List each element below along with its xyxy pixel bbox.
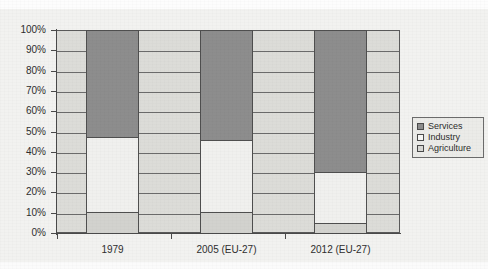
y-tick-mark-50 bbox=[51, 132, 57, 133]
y-tick-label-100: 100% bbox=[2, 25, 46, 35]
y-tick-label-80: 80% bbox=[2, 66, 46, 76]
bar-segment-services bbox=[201, 30, 252, 141]
bar-segment-agriculture bbox=[201, 213, 252, 233]
legend-swatch-industry bbox=[417, 134, 424, 141]
x-tick-mark-1 bbox=[171, 233, 172, 239]
y-tick-label-10: 10% bbox=[2, 208, 46, 218]
y-tick-label-20: 20% bbox=[2, 187, 46, 197]
bar-segment-services bbox=[315, 30, 366, 173]
bar-segment-industry bbox=[87, 138, 138, 213]
legend-label-industry: Industry bbox=[428, 132, 460, 143]
bar-segment-agriculture bbox=[87, 213, 138, 233]
bar-segment-industry bbox=[201, 141, 252, 213]
chart-title-cropped bbox=[96, 0, 396, 3]
y-tick-label-0: 0% bbox=[2, 228, 46, 238]
x-tick-label-0: 1979 bbox=[58, 244, 168, 255]
y-tick-label-90: 90% bbox=[2, 45, 46, 55]
legend-label-agriculture: Agriculture bbox=[428, 143, 471, 154]
y-tick-mark-10 bbox=[51, 213, 57, 214]
legend-item-industry: Industry bbox=[417, 132, 480, 143]
y-tick-mark-30 bbox=[51, 172, 57, 173]
y-tick-mark-70 bbox=[51, 91, 57, 92]
bar-2005-eu-27- bbox=[200, 30, 253, 233]
y-tick-mark-20 bbox=[51, 192, 57, 193]
bar-1979 bbox=[86, 30, 139, 233]
x-axis-line bbox=[56, 233, 401, 234]
bar-segment-agriculture bbox=[315, 224, 366, 233]
y-tick-label-50: 50% bbox=[2, 127, 46, 137]
legend-swatch-agriculture bbox=[417, 145, 424, 152]
y-tick-label-30: 30% bbox=[2, 167, 46, 177]
y-tick-mark-90 bbox=[51, 50, 57, 51]
bar-segment-services bbox=[87, 30, 138, 138]
y-tick-mark-40 bbox=[51, 152, 57, 153]
y-tick-mark-0 bbox=[51, 233, 57, 234]
x-tick-mark-2 bbox=[285, 233, 286, 239]
x-tick-label-1: 2005 (EU-27) bbox=[172, 244, 282, 255]
legend-label-services: Services bbox=[428, 121, 463, 132]
y-tick-label-40: 40% bbox=[2, 147, 46, 157]
y-tick-mark-80 bbox=[51, 71, 57, 72]
legend-item-services: Services bbox=[417, 121, 480, 132]
bar-segment-industry bbox=[315, 173, 366, 224]
y-tick-mark-60 bbox=[51, 111, 57, 112]
x-tick-label-2: 2012 (EU-27) bbox=[286, 244, 396, 255]
bar-2012-eu-27- bbox=[314, 30, 367, 233]
legend-item-agriculture: Agriculture bbox=[417, 143, 480, 154]
chart-legend: Services Industry Agriculture bbox=[412, 117, 484, 158]
stacked-bar-chart-figure: 0%10%20%30%40%50%60%70%80%90%100% 197920… bbox=[0, 0, 488, 269]
y-tick-label-60: 60% bbox=[2, 106, 46, 116]
y-tick-mark-100 bbox=[51, 30, 57, 31]
legend-swatch-services bbox=[417, 123, 424, 130]
y-tick-label-70: 70% bbox=[2, 86, 46, 96]
x-tick-mark-0 bbox=[57, 233, 58, 239]
page-bottom-margin bbox=[0, 262, 488, 269]
